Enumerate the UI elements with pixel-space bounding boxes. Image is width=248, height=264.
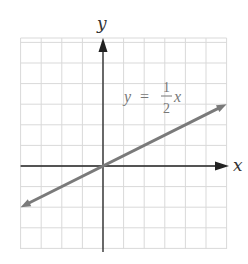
grid-lines: [21, 38, 227, 249]
equation-equals: =: [140, 88, 149, 105]
equation-numerator: 1: [163, 80, 170, 95]
equation-variable: x: [173, 88, 181, 105]
y-axis-arrow-icon: [99, 38, 108, 52]
x-axis-label: x: [233, 155, 243, 175]
line-arrow-start-icon: [21, 199, 32, 207]
line-arrow-end-icon: [216, 104, 227, 112]
equation-label: y = 1 2 x: [122, 80, 181, 116]
coordinate-plane: y x y = 1 2 x: [0, 0, 248, 264]
equation-lhs: y: [122, 88, 132, 106]
equation-denominator: 2: [163, 101, 170, 116]
y-axis-label: y: [96, 13, 107, 33]
